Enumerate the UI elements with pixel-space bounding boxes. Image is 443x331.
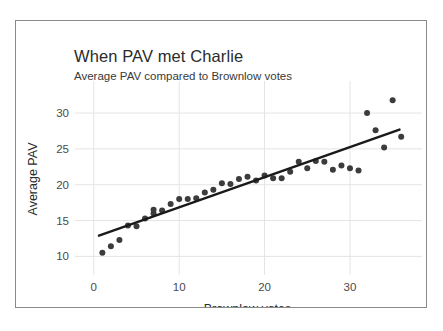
- x-tick-label: 20: [258, 281, 271, 293]
- data-point: [398, 134, 404, 140]
- data-point: [108, 243, 114, 249]
- data-point: [99, 250, 105, 256]
- data-points-group: [99, 97, 404, 256]
- y-tick-label: 30: [56, 107, 69, 119]
- data-point: [347, 165, 353, 171]
- x-tick-label: 0: [91, 281, 97, 293]
- data-point: [338, 162, 344, 168]
- data-point: [227, 181, 233, 187]
- data-point: [176, 196, 182, 202]
- data-point: [390, 97, 396, 103]
- trendline: [99, 130, 400, 236]
- data-point: [245, 174, 251, 180]
- chart-frame: When PAV met Charlie Average PAV compare…: [15, 20, 427, 308]
- data-point: [279, 175, 285, 181]
- y-tick-label: 15: [56, 215, 69, 227]
- data-point: [364, 110, 370, 116]
- data-point: [321, 159, 327, 165]
- data-point: [373, 127, 379, 133]
- x-tick-label: 30: [344, 281, 357, 293]
- y-tick-label: 10: [56, 250, 69, 262]
- data-point: [168, 201, 174, 207]
- data-point: [210, 187, 216, 193]
- x-axis-title: Brownlow votes: [204, 302, 292, 307]
- data-point: [304, 165, 310, 171]
- data-point: [270, 175, 276, 181]
- y-tick-label: 25: [56, 143, 69, 155]
- data-point: [202, 190, 208, 196]
- data-point: [381, 144, 387, 150]
- data-point: [356, 167, 362, 173]
- x-axis-ticks-group: 0102030: [91, 281, 357, 293]
- data-point: [151, 207, 157, 213]
- data-point: [236, 176, 242, 182]
- x-tick-label: 10: [173, 281, 186, 293]
- scatter-plot: 1015202530 0102030 Brownlow votes Averag…: [16, 21, 426, 307]
- data-point: [219, 180, 225, 186]
- data-point: [185, 196, 191, 202]
- y-tick-label: 20: [56, 179, 69, 191]
- y-axis-ticks-group: 1015202530: [56, 107, 69, 262]
- data-point: [116, 237, 122, 243]
- y-axis-title: Average PAV: [26, 142, 40, 216]
- data-point: [330, 167, 336, 173]
